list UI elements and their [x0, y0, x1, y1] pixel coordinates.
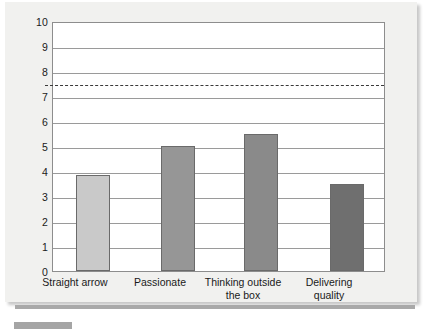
- y-tick-4: 4: [12, 166, 48, 178]
- bar-delivering-quality: [330, 184, 364, 271]
- chart-plot-frame: [52, 22, 385, 272]
- gridline-5: [53, 148, 384, 149]
- gridline-7: [53, 98, 384, 99]
- y-tick-1: 1: [12, 241, 48, 253]
- x-label-line: the box: [195, 289, 291, 302]
- gridline-6: [53, 123, 384, 124]
- x-label-line: Thinking outside: [195, 276, 291, 289]
- scanned-page-panel: 10 9 8 7 6 5 4 3 2 1 0: [5, 2, 417, 302]
- bar-straight-arrow: [76, 175, 110, 271]
- y-tick-3: 3: [12, 191, 48, 203]
- plot-area: [53, 23, 384, 271]
- gridline-9: [53, 48, 384, 49]
- gridline-4: [53, 173, 384, 174]
- y-axis: 10 9 8 7 6 5 4 3 2 1 0: [5, 22, 48, 272]
- x-label-line: Straight arrow: [27, 276, 123, 289]
- x-label-line: Passionate: [112, 276, 208, 289]
- x-label-delivering-quality: Delivering quality: [281, 276, 377, 302]
- bar-thinking-outside-the-box: [244, 134, 278, 271]
- y-tick-7: 7: [12, 91, 48, 103]
- x-label-thinking-outside-the-box: Thinking outside the box: [195, 276, 291, 302]
- x-label-passionate: Passionate: [112, 276, 208, 289]
- bar-passionate: [161, 146, 195, 271]
- x-label-line: quality: [281, 289, 377, 302]
- y-tick-10: 10: [12, 16, 48, 28]
- x-label-straight-arrow: Straight arrow: [27, 276, 123, 289]
- x-label-line: Delivering: [281, 276, 377, 289]
- footer-swatch: [14, 322, 72, 329]
- gridline-8: [53, 73, 384, 74]
- bottom-rule: [15, 305, 415, 309]
- reference-line-7-5: [45, 85, 384, 86]
- y-tick-5: 5: [12, 141, 48, 153]
- y-tick-2: 2: [12, 216, 48, 228]
- y-tick-8: 8: [12, 66, 48, 78]
- screenshot-root: 10 9 8 7 6 5 4 3 2 1 0: [0, 0, 430, 333]
- y-tick-6: 6: [12, 116, 48, 128]
- y-tick-9: 9: [12, 41, 48, 53]
